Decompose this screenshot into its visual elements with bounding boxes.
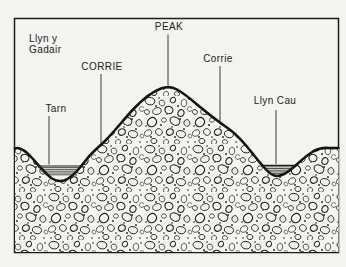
corrie-diagram: Llyn y Gadair CORRIE PEAK Corrie Tarn Ll… <box>0 0 346 267</box>
label-peak: PEAK <box>155 21 183 32</box>
label-corrie-right: Corrie <box>203 53 233 64</box>
label-llyn-y-gadair-line1: Llyn y <box>29 33 61 44</box>
label-llyn-y-gadair-line2: Gadair <box>29 44 61 55</box>
label-llyn-cau: Llyn Cau <box>254 95 297 106</box>
label-llyn-y-gadair: Llyn y Gadair <box>29 33 61 55</box>
label-tarn: Tarn <box>45 103 66 114</box>
label-corrie-left: CORRIE <box>81 61 122 72</box>
